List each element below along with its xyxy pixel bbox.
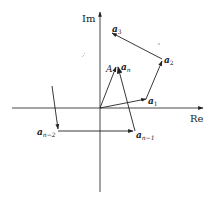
vector-a1 [100, 99, 146, 108]
vector-a-n-2 [52, 86, 58, 129]
im-axis-label: Im [82, 13, 96, 24]
vector-a3 [112, 33, 162, 59]
label-A: A [105, 64, 113, 74]
label-a2: a2 [164, 55, 174, 66]
vector-a2 [146, 61, 162, 99]
vector-a-n [118, 67, 135, 131]
label-a3: a3 [112, 24, 122, 35]
re-axis-label: Re [190, 113, 204, 124]
label-a1: a1 [148, 96, 158, 107]
stray-dot [158, 43, 160, 45]
ellipsis-marks [82, 53, 85, 57]
label-a-n-2: an−2 [37, 127, 56, 138]
complex-plane-diagram: Im Re a3 a2 a1 A an an−1 an−2 [0, 0, 213, 202]
label-an: an [121, 62, 131, 73]
label-a-n-1: an−1 [136, 130, 155, 141]
